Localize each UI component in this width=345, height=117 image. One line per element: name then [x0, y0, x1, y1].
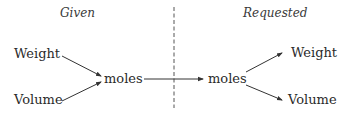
moles-right-label: moles — [208, 72, 247, 85]
moles-left-label: moles — [104, 72, 143, 85]
conversion-diagram: Given Requested Weight Volume moles mole… — [0, 0, 345, 117]
requested-weight-label: Weight — [291, 46, 337, 59]
given-volume-label: Volume — [14, 93, 63, 106]
header-given: Given — [60, 7, 95, 19]
given-weight-label: Weight — [14, 47, 60, 60]
arrow-moles-to-volume — [246, 85, 282, 100]
arrow-volume-to-moles — [62, 82, 101, 101]
header-requested: Requested — [243, 7, 307, 19]
arrow-weight-to-moles — [62, 56, 101, 76]
arrow-moles-to-weight — [246, 53, 282, 72]
requested-volume-label: Volume — [288, 93, 337, 106]
